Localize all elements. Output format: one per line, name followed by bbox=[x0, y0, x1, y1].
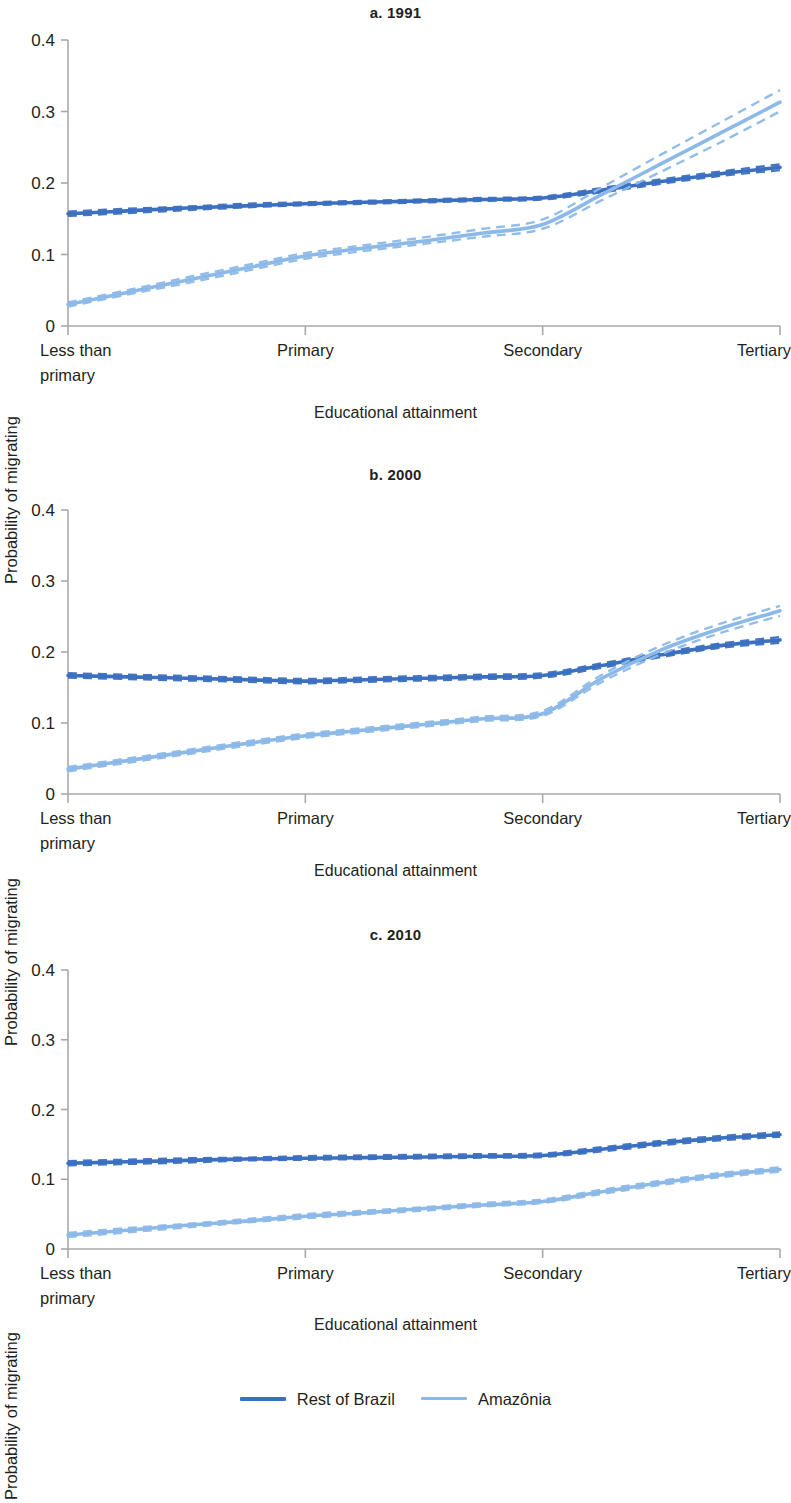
confidence-interval-upper-line bbox=[68, 90, 780, 302]
panel-2000: b. 2000 00.10.20.30.4Less thanprimaryPri… bbox=[0, 462, 791, 922]
legend-line-swatch-icon bbox=[421, 1397, 467, 1400]
x-tick-label: Tertiary bbox=[737, 1264, 791, 1282]
panel-2010: c. 2010 00.10.20.30.4Less thanprimaryPri… bbox=[0, 922, 791, 1372]
y-tick-label: 0.1 bbox=[31, 1170, 55, 1189]
y-axis-label: Probability of migrating bbox=[2, 1266, 21, 1503]
legend-label: Amazônia bbox=[478, 1391, 551, 1408]
x-tick-label: Secondary bbox=[503, 341, 583, 359]
x-tick-label: Tertiary bbox=[737, 341, 791, 359]
y-tick-label: 0.3 bbox=[31, 572, 55, 591]
confidence-interval-upper-line bbox=[68, 164, 780, 211]
legend-item-amazonia[interactable]: Amazônia bbox=[421, 1391, 551, 1408]
x-tick-label: Primary bbox=[277, 1264, 335, 1282]
x-tick-label: Less than bbox=[40, 341, 112, 359]
legend-item-rest-of-brazil[interactable]: Rest of Brazil bbox=[240, 1391, 395, 1408]
plot-area-2010: 00.10.20.30.4Less thanprimaryPrimarySeco… bbox=[0, 922, 791, 1322]
legend-label: Rest of Brazil bbox=[297, 1391, 395, 1408]
y-tick-label: 0.2 bbox=[31, 643, 55, 662]
confidence-interval-upper-line bbox=[68, 1167, 780, 1233]
x-tick-label-line2: primary bbox=[40, 834, 96, 852]
x-tick-label: Primary bbox=[277, 341, 335, 359]
legend-line-swatch-icon bbox=[240, 1397, 286, 1401]
y-tick-label: 0.3 bbox=[31, 103, 55, 122]
x-axis-label: Educational attainment bbox=[0, 404, 791, 422]
x-tick-label-line2: primary bbox=[40, 1289, 96, 1307]
confidence-interval-lower-line bbox=[68, 616, 780, 771]
plot-area-2000: 00.10.20.30.4Less thanprimaryPrimarySeco… bbox=[0, 462, 791, 862]
chart-svg-2010: 00.10.20.30.4Less thanprimaryPrimarySeco… bbox=[0, 922, 791, 1322]
x-tick-label: Less than bbox=[40, 809, 112, 827]
x-tick-label: Primary bbox=[277, 809, 335, 827]
y-tick-label: 0 bbox=[46, 317, 55, 336]
y-tick-label: 0.4 bbox=[31, 961, 55, 980]
x-tick-label-line2: primary bbox=[40, 366, 96, 384]
series-line-amaz-nia bbox=[68, 102, 780, 304]
chart-svg-2000: 00.10.20.30.4Less thanprimaryPrimarySeco… bbox=[0, 462, 791, 862]
y-tick-label: 0 bbox=[46, 785, 55, 804]
plot-area-1991: 00.10.20.30.4Less thanprimaryPrimarySeco… bbox=[0, 0, 791, 400]
panel-1991: a. 1991 00.10.20.30.4Less thanprimaryPri… bbox=[0, 0, 791, 462]
confidence-interval-upper-line bbox=[68, 606, 780, 767]
y-tick-label: 0.4 bbox=[31, 31, 55, 50]
x-tick-label: Tertiary bbox=[737, 809, 791, 827]
series-line-amaz-nia bbox=[68, 611, 780, 769]
x-axis-label: Educational attainment bbox=[0, 1316, 791, 1334]
x-tick-label: Less than bbox=[40, 1264, 112, 1282]
x-axis-label: Educational attainment bbox=[0, 862, 791, 880]
chart-legend: Rest of Brazil Amazônia bbox=[0, 1391, 791, 1408]
y-tick-label: 0.1 bbox=[31, 714, 55, 733]
y-tick-label: 0.1 bbox=[31, 246, 55, 265]
y-tick-label: 0.2 bbox=[31, 174, 55, 193]
y-tick-label: 0.2 bbox=[31, 1101, 55, 1120]
x-tick-label: Secondary bbox=[503, 809, 583, 827]
y-tick-label: 0.4 bbox=[31, 501, 55, 520]
series-line-amaz-nia bbox=[68, 1169, 780, 1235]
y-tick-label: 0.3 bbox=[31, 1031, 55, 1050]
chart-svg-1991: 00.10.20.30.4Less thanprimaryPrimarySeco… bbox=[0, 0, 791, 400]
y-tick-label: 0 bbox=[46, 1240, 55, 1259]
x-tick-label: Secondary bbox=[503, 1264, 583, 1282]
